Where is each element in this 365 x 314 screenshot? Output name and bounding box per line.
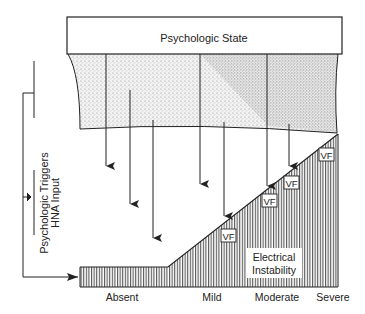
- svg-text:VF: VF: [222, 231, 234, 242]
- svg-text:VF: VF: [263, 196, 275, 207]
- svg-text:VF: VF: [320, 150, 332, 161]
- psychologic-triggers-label: Psychologic Triggers HNA Input: [38, 152, 61, 254]
- svg-text:VF: VF: [285, 178, 297, 189]
- psychologic-state-box: Psychologic State: [67, 17, 342, 54]
- severity-axis-labels: Absent Mild Moderate Severe: [106, 291, 350, 303]
- psychologic-state-region: [68, 54, 338, 133]
- trigger-input-path: [23, 61, 78, 277]
- vf-marker-2: VF: [262, 194, 277, 207]
- vf-marker-3: VF: [284, 176, 299, 189]
- axis-label-severe: Severe: [316, 291, 349, 303]
- vf-marker-4: VF: [319, 148, 334, 161]
- vf-marker-1: VF: [221, 229, 236, 242]
- electrical-label-line2: Instability: [252, 264, 297, 276]
- electrical-label-line1: Electrical: [253, 251, 296, 263]
- side-label-line2: HNA Input: [49, 178, 61, 228]
- electrical-instability-region: Electrical Instability: [80, 134, 338, 287]
- axis-label-absent: Absent: [106, 291, 139, 303]
- psychologic-state-label: Psychologic State: [160, 32, 247, 44]
- diagram-canvas: Psychologic State Electrical Instability…: [0, 0, 365, 314]
- axis-label-mild: Mild: [202, 291, 221, 303]
- axis-label-moderate: Moderate: [255, 291, 300, 303]
